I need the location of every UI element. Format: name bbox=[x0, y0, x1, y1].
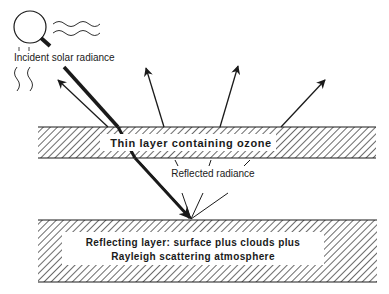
reflecting-layer-label-line2: Rayleigh scattering atmosphere bbox=[111, 251, 275, 262]
reflected-radiance-label: Reflected radiance bbox=[171, 168, 255, 179]
incident-solar-radiance-label: Incident solar radiance bbox=[14, 52, 115, 63]
upward-reflected-arrows bbox=[58, 66, 325, 127]
reflecting-layer: Reflecting layer: surface plus clouds pl… bbox=[38, 220, 377, 282]
reflecting-layer-label-line1: Reflecting layer: surface plus clouds pl… bbox=[86, 237, 301, 248]
ozone-layer-label: Thin layer containing ozone bbox=[110, 137, 272, 149]
ozone-radiance-diagram: Thin layer containing ozone Reflected ra… bbox=[0, 0, 389, 294]
ozone-layer: Thin layer containing ozone bbox=[38, 127, 376, 158]
